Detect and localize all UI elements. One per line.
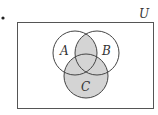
set-label-a: A xyxy=(59,44,69,58)
bullet-marker xyxy=(1,16,4,19)
set-label-c: C xyxy=(81,80,90,94)
universe-label: U xyxy=(139,7,150,21)
venn-diagram: U A B C xyxy=(0,0,158,115)
set-label-b: B xyxy=(101,44,111,58)
